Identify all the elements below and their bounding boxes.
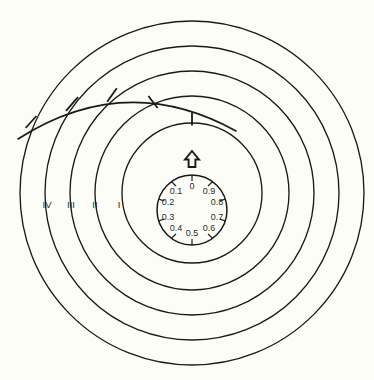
up-arrow-icon: [185, 151, 199, 167]
dial-label-group: 0 0.1 0.2 0.3 0.4 0.5 0.6 0.7 0.8 0.9: [162, 181, 224, 238]
dial-label-0-7: 0.7: [211, 212, 224, 222]
zone-label-i: I: [118, 199, 121, 210]
ring-outer-5: [20, 21, 364, 365]
dial-tick-0-1: [171, 182, 176, 186]
dial-label-0-9: 0.9: [203, 186, 216, 196]
zone-label-ii: II: [92, 199, 97, 210]
dial-tick-0-9: [208, 182, 213, 186]
dial-label-0-8: 0.8: [211, 197, 224, 207]
zone-label-iv: IV: [43, 199, 53, 210]
dial-label-0-3: 0.3: [162, 212, 175, 222]
dial-label-0-2: 0.2: [162, 197, 175, 207]
diagram-canvas: IV III II I: [0, 0, 374, 380]
dial-tick-0-6: [208, 234, 213, 238]
dial-label-0: 0: [189, 181, 194, 191]
dial-index-arrow: [185, 151, 199, 167]
ring-3: [70, 71, 314, 315]
dial-label-0-5: 0.5: [186, 228, 199, 238]
ring-group: [20, 21, 364, 365]
sweep-tick-3: [107, 88, 117, 102]
zone-label-group: IV III II I: [43, 199, 121, 210]
dial-label-0-4: 0.4: [170, 223, 183, 233]
concentric-ring-dial-figure: IV III II I: [0, 0, 374, 380]
zone-label-iii: III: [67, 199, 75, 210]
dial-label-0-1: 0.1: [170, 186, 183, 196]
dial-tick-0-4: [171, 234, 176, 238]
dial-label-0-6: 0.6: [203, 223, 216, 233]
decimal-dial-group[interactable]: 0 0.1 0.2 0.3 0.4 0.5 0.6 0.7 0.8 0.9: [157, 175, 227, 245]
ring-4: [45, 46, 339, 340]
